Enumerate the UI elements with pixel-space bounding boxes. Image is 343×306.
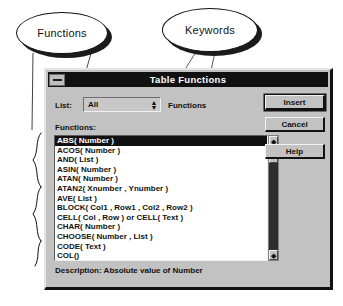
arrow-down-glyph: ▼	[151, 105, 158, 110]
combobox-value: All	[88, 100, 148, 109]
list-item[interactable]: ASIN( Number )	[55, 165, 267, 175]
functions-listbox[interactable]: ABS( Number )ACOS( Number )AND( List )AS…	[54, 135, 268, 261]
button-label: Insert	[284, 98, 306, 107]
dialog-titlebar[interactable]: Table Functions	[48, 72, 328, 87]
list-item[interactable]: ATAN( Number )	[55, 174, 267, 184]
screenshot-canvas: Functions Keywords Table Functions List:…	[0, 0, 343, 306]
system-menu-icon[interactable]	[49, 74, 65, 86]
list-item[interactable]: CODE( Text )	[55, 242, 267, 252]
list-item[interactable]: ATAN2( Xnumber , Ynumber )	[55, 184, 267, 194]
callout-label: Keywords	[185, 24, 235, 36]
list-label: List:	[55, 101, 72, 110]
updown-arrow-icon[interactable]: ▲ ▼	[148, 98, 160, 111]
list-item[interactable]: ABS( Number )	[55, 136, 267, 146]
help-button[interactable]: Help	[265, 144, 325, 159]
description-text: Description: Absolute value of Number	[55, 266, 203, 275]
list-item[interactable]: CHOOSE( Number , List )	[55, 232, 267, 242]
list-item[interactable]: AVE( List )	[55, 194, 267, 204]
functions-word-label: Functions	[168, 101, 206, 110]
list-item[interactable]: AND( List )	[55, 155, 267, 165]
callout-bubble: Keywords	[162, 8, 258, 52]
functions-caption-label: Functions:	[55, 123, 96, 132]
leader-line-functions-brace	[32, 53, 33, 130]
button-label: Cancel	[281, 120, 307, 129]
list-item[interactable]: BLOCK( Col1 , Row1 , Col2 , Row2 )	[55, 203, 267, 213]
cancel-button[interactable]: Cancel	[265, 117, 325, 132]
callout-bubble: Functions	[16, 12, 108, 54]
dialog-title: Table Functions	[65, 74, 311, 85]
brace-functions-list	[33, 133, 41, 266]
list-item[interactable]: ACOS( Number )	[55, 146, 267, 156]
callout-label: Functions	[37, 27, 87, 39]
button-label: Help	[286, 147, 303, 156]
callout-functions: Functions	[16, 12, 108, 54]
insert-button[interactable]: Insert	[265, 95, 325, 110]
scroll-down-arrow-icon[interactable]: ◆	[269, 250, 278, 260]
list-item[interactable]: CELL( Col , Row ) or CELL( Text )	[55, 213, 267, 223]
table-functions-dialog: Table Functions List: All ▲ ▼ Functions …	[44, 68, 333, 290]
list-filter-combobox[interactable]: All ▲ ▼	[83, 97, 161, 112]
list-item[interactable]: CHAR( Number )	[55, 222, 267, 232]
callout-keywords: Keywords	[162, 8, 258, 52]
list-item[interactable]: COL()	[55, 251, 267, 261]
